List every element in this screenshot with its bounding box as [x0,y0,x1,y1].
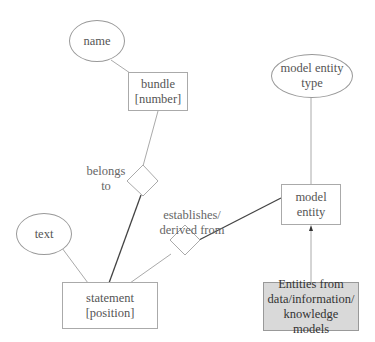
belongs-to-line1: belongs [86,164,126,179]
entity-statement: statement [position] [62,282,158,329]
external-line2: data/information/ [268,292,355,307]
model-entity-type-line2: type [301,76,323,91]
establishes-line2: derived from [152,223,232,238]
attribute-name: name [69,20,125,62]
attribute-text: text [16,213,72,255]
relationship-establishes-label: establishes/ derived from [152,208,232,238]
arrowhead-icon [309,225,313,231]
belongs-to-line2: to [86,179,126,194]
external-entities-box: Entities from data/information/ knowledg… [263,282,359,331]
belongs-to-diamond [127,165,158,196]
attribute-model-entity-type: model entity type [271,54,353,98]
entity-bundle: bundle [number] [128,72,188,111]
entity-statement-line2: [position] [86,306,135,321]
model-entity-line2: entity [297,205,325,220]
connector-bundle-belongs [143,111,158,166]
external-line3: knowledge models [264,307,358,337]
entity-statement-line1: statement [86,291,134,306]
external-line1: Entities from [278,277,344,292]
model-entity-line1: model [295,190,326,205]
connector-belongs-statement [109,195,141,283]
model-entity-type-line1: model entity [281,61,344,76]
connector-text-statement [62,248,88,283]
entity-bundle-line1: bundle [141,77,175,92]
relationship-belongs-to-label: belongs to [86,164,126,194]
establishes-line1: establishes/ [152,208,232,223]
attribute-text-label: text [35,227,54,242]
connector-statement-establishes [130,254,171,283]
attribute-name-label: name [83,34,110,49]
entity-bundle-line2: [number] [135,92,182,107]
entity-model-entity: model entity [281,184,341,225]
